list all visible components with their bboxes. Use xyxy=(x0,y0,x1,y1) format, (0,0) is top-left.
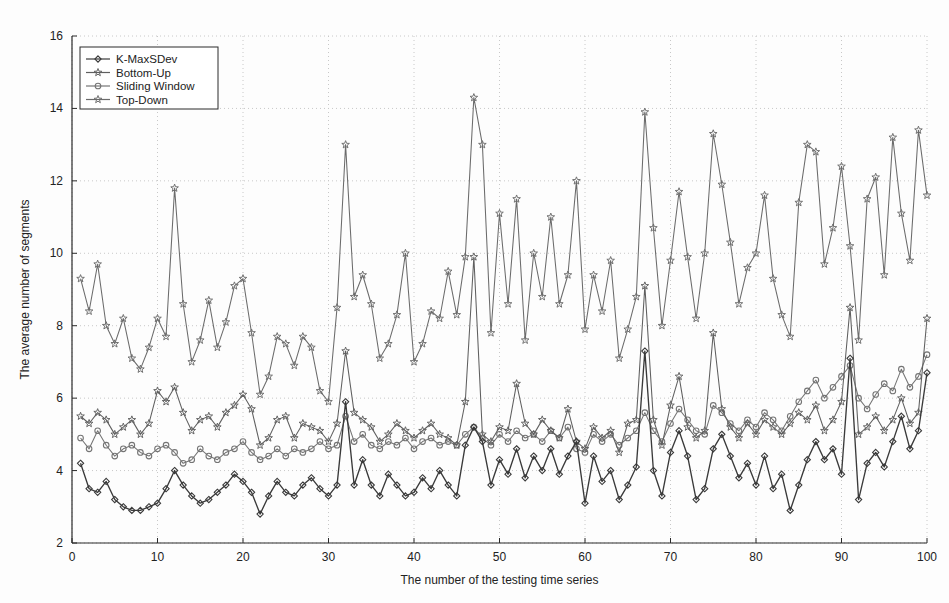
legend-item-label: Sliding Window xyxy=(116,80,195,92)
y-tick-label: 6 xyxy=(56,391,63,405)
legend-item-label: Top-Down xyxy=(116,94,168,106)
x-tick-label: 90 xyxy=(835,550,849,564)
y-tick-label: 14 xyxy=(50,101,64,115)
x-tick-label: 10 xyxy=(151,550,165,564)
x-tick-label: 40 xyxy=(407,550,421,564)
y-tick-label: 4 xyxy=(56,464,63,478)
y-tick-label: 8 xyxy=(56,319,63,333)
x-tick-label: 30 xyxy=(322,550,336,564)
x-tick-label: 20 xyxy=(236,550,250,564)
x-tick-label: 100 xyxy=(917,550,937,564)
y-tick-label: 10 xyxy=(50,246,64,260)
y-tick-label: 12 xyxy=(50,174,64,188)
x-axis-title: The number of the testing time series xyxy=(400,573,598,587)
x-tick-label: 80 xyxy=(749,550,763,564)
x-tick-label: 50 xyxy=(493,550,507,564)
chart-legend[interactable]: K-MaxSDevBottom-UpSliding WindowTop-Down xyxy=(80,47,218,109)
x-tick-label: 70 xyxy=(664,550,678,564)
y-tick-label: 2 xyxy=(56,536,63,550)
figure-container: 0102030405060708090100 246810121416 The … xyxy=(0,0,949,603)
legend-item-label: K-MaxSDev xyxy=(116,53,178,65)
line-chart: 0102030405060708090100 246810121416 The … xyxy=(0,0,949,603)
x-tick-label: 60 xyxy=(578,550,592,564)
y-tick-label: 16 xyxy=(50,29,64,43)
x-tick-label: 0 xyxy=(69,550,76,564)
y-axis-title: The average number of segments xyxy=(18,199,32,379)
legend-item-label: Bottom-Up xyxy=(116,67,171,79)
